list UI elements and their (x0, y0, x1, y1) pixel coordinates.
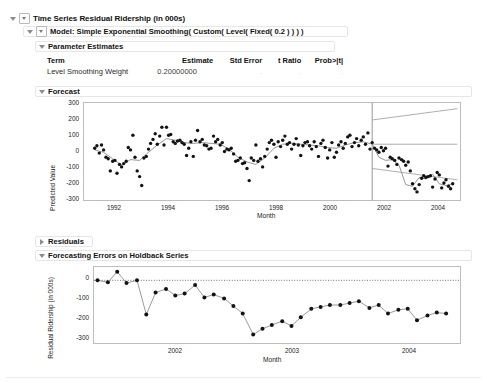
forecast-ytick-300: 300 (57, 99, 79, 106)
report-title: Time Series Residual Ridership (in 000s) (33, 13, 185, 24)
holdback-ytick-0: 0 (67, 274, 89, 281)
col-header-estimate: Estimate (153, 56, 215, 67)
cell-std-error: . (215, 67, 264, 77)
forecast-xtick-1998: 1998 (262, 204, 290, 211)
model-label: Model: Simple Exponential Smoothing( Cus… (50, 26, 304, 37)
disclosure-triangle-forecast-icon[interactable] (38, 88, 45, 95)
holdback-x-axis-label: Month (263, 356, 281, 363)
outline-node-residuals[interactable]: Residuals (35, 236, 93, 247)
outline-node-model[interactable]: Model: Simple Exponential Smoothing( Cus… (23, 26, 348, 37)
holdback-ytick-m300: -300 (67, 334, 89, 341)
outline-node-parameter-estimates[interactable]: Parameter Estimates (35, 41, 335, 52)
forecast-ytick-m300: -300 (57, 195, 79, 202)
disclosure-triangle-holdback-icon[interactable] (38, 252, 45, 259)
jmp-report-window: Time Series Residual Ridership (in 000s)… (0, 0, 487, 383)
holdback-xtick-2002: 2002 (161, 347, 189, 354)
forecast-plot-frame (83, 102, 461, 201)
holdback-y-axis-label-text: Residual Ridership (in 000s) (47, 277, 54, 359)
holdback-plot-frame (93, 266, 461, 344)
forecast-label: Forecast (48, 86, 80, 97)
holdback-y-axis-label: Residual Ridership (in 000s) (47, 277, 55, 359)
disclosure-triangle-parameter-estimates-icon[interactable] (38, 43, 45, 50)
forecast-ytick-0: 0 (57, 147, 79, 154)
forecast-xtick-2000: 2000 (316, 204, 344, 211)
holdback-errors-chart: Residual Ridership (in 000s) 0 -100 -200… (45, 266, 465, 371)
col-header-term: Term (45, 56, 153, 67)
forecast-xtick-1992: 1992 (100, 204, 128, 211)
col-header-t-ratio: t Ratio (264, 56, 303, 67)
outline-node-holdback-errors[interactable]: Forecasting Errors on Holdback Series (35, 250, 472, 261)
holdback-xtick-2003: 2003 (278, 347, 306, 354)
outline-node-forecast[interactable]: Forecast (35, 86, 472, 97)
forecast-ytick-100: 100 (57, 131, 79, 138)
cell-term: Level Smoothing Weight (45, 67, 153, 77)
col-header-std-error: Std Error (215, 56, 264, 67)
parameter-estimates-table: Term Estimate Std Error t Ratio Prob>|t|… (45, 56, 345, 77)
table-row: Level Smoothing Weight 0.20000000 . . . (45, 67, 345, 77)
holdback-plot-svg (94, 267, 460, 343)
forecast-y-axis-label: Predicted Value (49, 165, 56, 211)
forecast-xtick-1994: 1994 (154, 204, 182, 211)
holdback-label: Forecasting Errors on Holdback Series (48, 250, 189, 261)
forecast-ytick-200: 200 (57, 115, 79, 122)
cell-estimate: 0.20000000 (153, 67, 215, 77)
disclosure-triangle-residuals-icon[interactable] (38, 238, 45, 245)
outline-box-toggle-root-icon[interactable] (19, 13, 30, 24)
cell-prob-t: . (303, 67, 345, 77)
outline-node-root[interactable]: Time Series Residual Ridership (in 000s) (9, 13, 185, 24)
forecast-ytick-m100: -100 (57, 163, 79, 170)
forecast-xtick-2002: 2002 (370, 204, 398, 211)
outline-box-toggle-model-icon[interactable] (36, 26, 47, 37)
forecast-xtick-1996: 1996 (208, 204, 236, 211)
holdback-ytick-m200: -200 (67, 314, 89, 321)
forecast-x-axis-label: Month (257, 212, 275, 219)
forecast-plot-svg (84, 103, 460, 200)
cell-t-ratio: . (264, 67, 303, 77)
disclosure-triangle-root-icon[interactable] (9, 15, 16, 22)
forecast-xtick-2004: 2004 (424, 204, 452, 211)
table-header-row: Term Estimate Std Error t Ratio Prob>|t| (45, 56, 345, 67)
holdback-ytick-m100: -100 (67, 294, 89, 301)
disclosure-triangle-model-icon[interactable] (26, 28, 33, 35)
parameter-estimates-label: Parameter Estimates (48, 41, 123, 52)
holdback-xtick-2004: 2004 (395, 347, 423, 354)
parameter-estimates-table-wrap: Term Estimate Std Error t Ratio Prob>|t|… (45, 56, 345, 77)
forecast-ytick-m200: -200 (57, 179, 79, 186)
forecast-chart: Predicted Value 300 200 100 0 -100 -200 … (45, 99, 465, 221)
residuals-label: Residuals (48, 236, 84, 247)
window-bottom-divider (6, 377, 481, 378)
col-header-prob-t: Prob>|t| (303, 56, 345, 67)
